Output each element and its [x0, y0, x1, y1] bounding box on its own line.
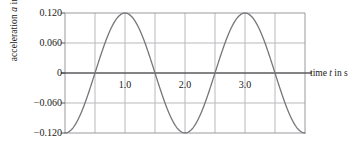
y-tick-label: 0.060 — [18, 38, 62, 48]
x-axis-title: time t in s — [310, 68, 348, 78]
x-axis-title-prefix: time — [310, 68, 329, 78]
x-axis-title-suffix: in s — [332, 68, 348, 78]
y-tick-label: −0.120 — [18, 128, 62, 138]
x-tick-label: 2.0 — [170, 80, 200, 90]
y-axis-title: acceleration a in m/s2 — [3, 0, 17, 81]
acceleration-time-chart: acceleration a in m/s2 0.120 0.060 0 −0.… — [0, 0, 359, 155]
y-tick-label: −0.060 — [18, 98, 62, 108]
x-tick-label: 1.0 — [110, 80, 140, 90]
x-tick-label: 3.0 — [230, 80, 260, 90]
y-tick-label: 0.120 — [18, 8, 62, 18]
y-tick-label-group: 0.120 0.060 0 −0.060 −0.120 — [16, 0, 62, 155]
y-tick-label: 0 — [18, 68, 62, 78]
